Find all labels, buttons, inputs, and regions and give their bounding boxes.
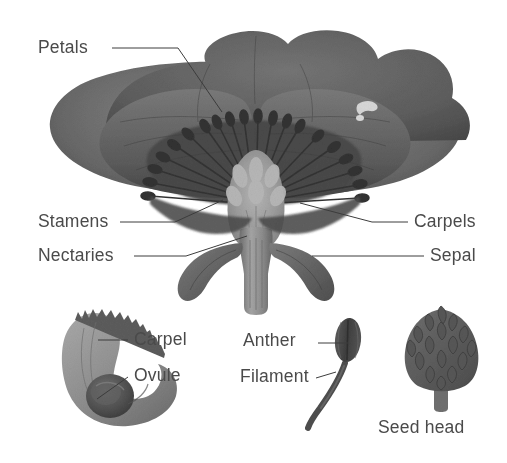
ovule-detail — [86, 374, 134, 418]
label-ovule: Ovule — [134, 366, 181, 385]
label-sepal: Sepal — [430, 246, 476, 265]
seedhead-art — [405, 306, 479, 412]
label-stamens: Stamens — [38, 212, 108, 231]
label-filament: Filament — [240, 367, 309, 386]
diagram-artwork — [0, 0, 507, 463]
sepal-right — [269, 243, 334, 301]
label-nectaries: Nectaries — [38, 246, 114, 265]
label-carpel: Carpel — [134, 330, 187, 349]
label-carpels: Carpels — [414, 212, 476, 231]
label-petals: Petals — [38, 38, 88, 57]
flower-anatomy-figure: Petals Stamens Nectaries Carpels Sepal C… — [0, 0, 507, 463]
flower-head — [50, 30, 470, 315]
filament-shape — [308, 363, 345, 428]
anther-shape — [333, 317, 363, 363]
filament-leader — [316, 372, 336, 378]
pedicel — [239, 227, 272, 315]
sepal-left — [178, 243, 243, 301]
label-anther: Anther — [243, 331, 296, 350]
label-seed-head: Seed head — [378, 418, 464, 437]
